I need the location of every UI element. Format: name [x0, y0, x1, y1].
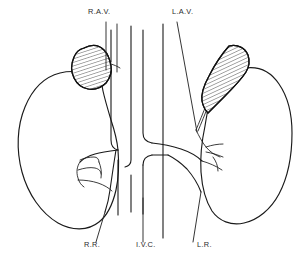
kidneys-group — [18, 68, 292, 229]
leader-left-renal-vein — [193, 192, 201, 242]
left-renal-vein-main — [152, 143, 202, 161]
left-hilum-edge — [168, 155, 201, 192]
aorta-right-wall-lower — [143, 155, 152, 165]
label-right-adrenal-vein: R.A.V. — [88, 7, 110, 16]
label-left-renal-vein: L.R. — [197, 240, 212, 249]
label-right-renal-vein: R.R. — [84, 240, 100, 249]
label-inferior-vena-cava: I.V.C. — [136, 240, 156, 249]
leader-left-adrenal-vein — [177, 22, 197, 132]
ivc-left-wall — [125, 26, 131, 167]
anatomy-illustration: R.A.V. L.A.V. R.R. I.V.C. L.R. — [0, 0, 307, 256]
aorta-right-wall-upper — [143, 30, 152, 143]
right-adrenal-vein-ostium — [111, 64, 120, 68]
label-left-adrenal-vein: L.A.V. — [172, 7, 193, 16]
right-kidney-outline — [18, 72, 118, 229]
anatomy-diagram: R.A.V. L.A.V. R.R. I.V.C. L.R. — [0, 0, 307, 256]
